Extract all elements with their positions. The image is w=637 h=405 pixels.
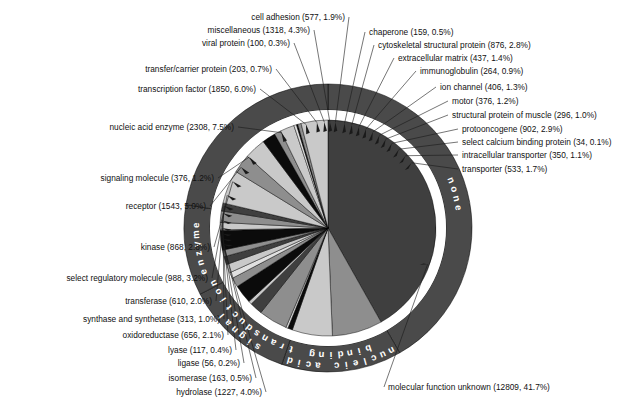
slice-label-immunoglobulin: immunoglobulin (264, 0.9%): [420, 66, 524, 76]
slice-label-signaling-molecule: signaling molecule (376, 1.2%): [101, 173, 215, 183]
pie-slices: [220, 120, 436, 336]
slice-label-extracellular-matrix: extracellular matrix (437, 1.4%): [398, 53, 513, 63]
slice-label-ion-channel: ion channel (406, 1.3%): [440, 82, 528, 92]
slice-label-transfer-carrier-protein: transfer/carrier protein (203, 0.7%): [145, 64, 272, 74]
slice-label-nucleic-acid-enzyme: nucleic acid enzyme (2308, 7.5%): [109, 122, 234, 132]
slice-label-transporter: transporter (533, 1.7%): [462, 164, 548, 174]
slice-label-ligase: ligase (56, 0.2%): [178, 358, 240, 368]
slice-label-select-calcium-binding-protein: select calcium binding protein (34, 0.1%…: [462, 137, 612, 147]
ring-label-nucleic-acid-binding: i: [329, 350, 332, 361]
slice-label-viral-protein: viral protein (100, 0.3%): [202, 38, 290, 48]
slice-label-miscellaneous: miscellaneous (1318, 4.3%): [208, 25, 311, 35]
slice-label-molecular-function-unknown: molecular function unknown (12809, 41.7%…: [388, 382, 550, 392]
slice-label-select-regulatory-molecule: select regulatory molecule (988, 3.2%): [66, 273, 208, 283]
slice-label-motor: motor (376, 1.2%): [452, 96, 519, 106]
pie-chart-svg: nonenucleic acidbindingsignaltransductio…: [0, 0, 637, 405]
ring-label-nucleic-acid-binding: c: [333, 361, 340, 372]
slice-label-structural-protein-of-muscle: structural protein of muscle (296, 1.0%): [452, 110, 597, 120]
slice-label-kinase: kinase (868, 2.8%): [141, 242, 210, 252]
slice-label-transferase: transferase (610, 2.0%): [125, 296, 212, 306]
slice-label-receptor: receptor (1543, 5.0%): [126, 201, 206, 211]
slice-label-cytoskeletal-structural-protein: cytoskeletal structural protein (876, 2.…: [378, 40, 531, 50]
ring-label-enzyme: m: [190, 230, 201, 239]
slice-label-oxidoreductase: oxidoreductase (656, 2.1%): [123, 330, 225, 340]
ring-label-enzyme: e: [190, 222, 201, 228]
ring-label-nucleic-acid-binding: d: [337, 349, 344, 361]
slice-label-hydrolase: hydrolase (1227, 4.0%): [176, 387, 262, 397]
slice-label-lyase: lyase (117, 0.4%): [168, 345, 232, 355]
slice-label-isomerase: isomerase (163, 0.5%): [169, 373, 253, 383]
slice-label-transcription-factor: transcription factor (1850, 6.0%): [138, 84, 256, 94]
ring-label-nucleic-acid-binding: n: [318, 350, 325, 361]
ring-label-nucleic-acid-binding: a: [314, 360, 321, 371]
slice-label-cell-adhesion: cell adhesion (577, 1.9%): [251, 12, 345, 22]
slice-label-chaperone: chaperone (159, 0.5%): [369, 27, 454, 37]
slice-label-protooncogene: protooncogene (902, 2.9%): [462, 124, 563, 134]
slice-label-intracellular-transporter: intracellular transporter (350, 1.1%): [462, 150, 592, 160]
slice-label-synthase-and-synthetase: synthase and synthetase (313, 1.0%): [83, 314, 220, 324]
pie-chart-figure: nonenucleic acidbindingsignaltransductio…: [0, 0, 637, 405]
